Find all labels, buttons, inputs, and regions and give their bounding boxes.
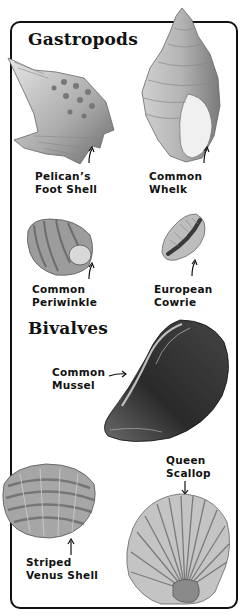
common-periwinkle-pointer-arrow [86, 262, 96, 280]
label-queen-scallop: Queen Scallop [166, 454, 211, 480]
common-whelk-illustration [140, 6, 222, 166]
striped-venus-shell-illustration [0, 462, 98, 542]
label-common-mussel: Common Mussel [52, 366, 105, 392]
european-cowrie-illustration [160, 212, 208, 262]
queen-scallop-illustration [123, 492, 233, 608]
label-common-whelk: Common Whelk [149, 170, 202, 196]
label-striped-venus-shell: Striped Venus Shell [26, 556, 98, 582]
european-cowrie-pointer-arrow [189, 259, 199, 277]
common-mussel-pointer-arrow [108, 369, 128, 379]
label-european-cowrie: European Cowrie [154, 283, 213, 309]
label-common-periwinkle: Common Periwinkle [32, 283, 97, 309]
heading-gastropods: Gastropods [28, 29, 138, 49]
common-whelk-pointer-arrow [201, 146, 211, 164]
heading-bivalves: Bivalves [28, 318, 108, 338]
common-mussel-illustration [100, 318, 232, 444]
label-pelicans-foot-shell: Pelican’s Foot Shell [35, 170, 97, 196]
pelicans-foot-pointer-arrow [86, 146, 96, 164]
pelicans-foot-shell-illustration [4, 52, 116, 164]
striped-venus-pointer-arrow [66, 538, 76, 556]
